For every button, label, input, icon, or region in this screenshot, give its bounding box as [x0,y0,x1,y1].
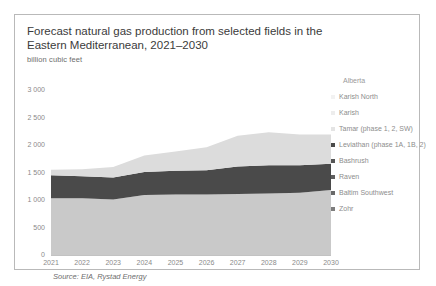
x-axis-line [51,255,331,256]
legend-item[interactable]: Bashrush [331,157,436,164]
legend-swatch-icon [331,207,335,211]
legend-item-label: Karish [339,109,359,116]
legend-swatch-icon [331,111,335,115]
x-axis-tick-label: 2028 [261,259,277,266]
chart-title: Forecast natural gas production from sel… [27,24,327,52]
legend-item-label: Zohr [339,205,353,212]
legend-swatch-icon [331,175,335,179]
y-axis-tick-label: 500 [33,224,45,231]
area-band [51,190,331,255]
legend-items: Karish NorthKarishTamar (phase 1, 2, SW)… [331,93,436,212]
x-axis-tick-label: 2022 [74,259,90,266]
legend-item[interactable]: Tamar (phase 1, 2, SW) [331,125,436,132]
legend-item[interactable]: Karish [331,109,436,116]
legend-item[interactable]: Karish North [331,93,436,100]
y-axis-tick-label: 3 000 [27,86,45,93]
legend-item-label: Karish North [339,93,378,100]
source-note: Source: EIA, Rystad Energy [53,272,146,281]
legend-item[interactable]: Raven [331,173,436,180]
stacked-area-series [51,90,331,255]
y-axis-tick-label: 2 500 [27,114,45,121]
legend-swatch-icon [331,159,335,163]
y-axis-tick-label: 2 000 [27,141,45,148]
legend-title: Alberta [343,77,436,84]
legend-swatch-icon [331,127,335,131]
chart-card: Forecast natural gas production from sel… [14,14,420,270]
chart-legend: Alberta Karish NorthKarishTamar (phase 1… [331,77,436,221]
legend-item-label: Raven [339,173,359,180]
legend-item-label: Tamar (phase 1, 2, SW) [339,125,413,132]
legend-item-label: Leviathan (phase 1A, 1B, 2) [339,141,426,148]
x-axis-tick-label: 2021 [43,259,59,266]
legend-swatch-icon [331,191,335,195]
legend-item[interactable]: Leviathan (phase 1A, 1B, 2) [331,141,436,148]
y-axis-tick-label: 1 500 [27,169,45,176]
chart-subtitle: billion cubic feet [27,55,82,64]
x-axis-tick-label: 2025 [168,259,184,266]
legend-item[interactable]: Zohr [331,205,436,212]
x-axis-tick-label: 2029 [292,259,308,266]
x-axis-tick-label: 2030 [323,259,339,266]
x-axis-tick-label: 2023 [105,259,121,266]
legend-item-label: Baltim Southwest [339,189,393,196]
legend-swatch-icon [331,143,335,147]
plot-area [51,90,331,255]
y-axis-tick-label: 1 000 [27,196,45,203]
x-axis-tick-label: 2027 [230,259,246,266]
legend-item-label: Bashrush [339,157,369,164]
y-axis-tick-label: 0 [41,251,45,258]
legend-item[interactable]: Baltim Southwest [331,189,436,196]
x-axis-tick-label: 2026 [199,259,215,266]
x-axis-tick-label: 2024 [137,259,153,266]
legend-swatch-icon [331,95,335,99]
